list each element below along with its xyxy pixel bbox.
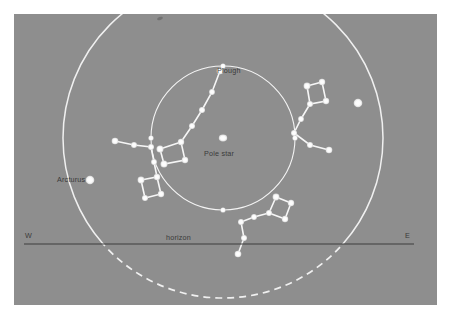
arcturus-star-east bbox=[354, 99, 363, 108]
constellation-plough-left bbox=[115, 141, 161, 198]
plough-bottom-stars bbox=[235, 194, 294, 258]
label-west: W bbox=[25, 232, 32, 239]
sky-panel: Plough Pole star Arcturus horizon W E bbox=[14, 14, 437, 305]
plough-right-stars bbox=[291, 79, 332, 154]
label-pole-star: Pole star bbox=[204, 150, 234, 157]
constellation-plough-bottom bbox=[238, 197, 291, 254]
arcturus-star-west bbox=[86, 176, 95, 185]
label-arcturus: Arcturus bbox=[57, 176, 85, 183]
constellation-plough-right bbox=[294, 82, 329, 150]
plough-left-stars bbox=[112, 138, 165, 201]
label-east: E bbox=[405, 232, 410, 239]
pole-star-marker bbox=[219, 135, 227, 142]
label-plough: Plough bbox=[217, 67, 241, 74]
figure-canvas: Plough Pole star Arcturus horizon W E bbox=[0, 0, 450, 323]
star-trail-diagram bbox=[14, 14, 437, 305]
label-horizon: horizon bbox=[166, 234, 191, 241]
